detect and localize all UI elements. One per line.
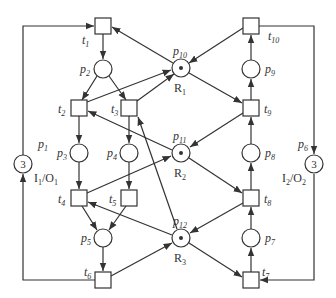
label-t8: t8 <box>264 192 271 208</box>
label-t4: t4 <box>58 192 65 208</box>
label-t10: t10 <box>268 29 279 45</box>
resource-label-io2: I2/O2 <box>282 171 306 187</box>
label-p1: p1 <box>37 137 48 153</box>
resource-label-r3: R3 <box>174 251 186 267</box>
label-t6: t6 <box>84 265 91 281</box>
resource-label-r1: R1 <box>174 81 186 97</box>
transition-t8[interactable] <box>243 190 259 206</box>
label-t2: t2 <box>58 102 65 118</box>
arc-t10-p10 <box>189 28 243 63</box>
place-p8[interactable] <box>242 144 260 162</box>
label-p11: p11 <box>172 129 186 145</box>
token-count-p1: 3 <box>20 158 26 170</box>
transition-t6[interactable] <box>95 272 111 288</box>
label-t3: t3 <box>111 102 118 118</box>
arc-t6-p12 <box>111 243 172 276</box>
place-p2[interactable] <box>94 60 112 78</box>
arc-p10-t1 <box>112 27 173 63</box>
label-t1: t1 <box>82 33 89 49</box>
label-t5: t5 <box>109 192 116 208</box>
place-p7[interactable] <box>242 229 260 247</box>
token-dot-p11 <box>179 151 183 155</box>
label-p5: p5 <box>80 231 91 247</box>
label-p6: p6 <box>297 137 308 153</box>
transition-t7[interactable] <box>243 272 259 288</box>
place-p5[interactable] <box>94 229 112 247</box>
arc-p12-t3 <box>138 117 177 229</box>
transition-t9[interactable] <box>243 100 259 116</box>
label-p10: p10 <box>172 44 187 60</box>
label-t7: t7 <box>262 265 270 281</box>
label-p2: p2 <box>79 62 90 78</box>
transition-t5[interactable] <box>121 190 137 206</box>
label-p4: p4 <box>106 146 117 162</box>
label-p12: p12 <box>172 214 187 230</box>
token-dot-p12 <box>179 236 183 240</box>
arc-t3-p10 <box>137 74 174 101</box>
label-p9: p9 <box>264 62 275 78</box>
petri-net-diagram: 3 3 p1 p2 p3 p4 p5 p6 p7 p8 p9 p10 p11 p… <box>0 0 336 298</box>
label-p7: p7 <box>264 231 276 247</box>
label-p3: p3 <box>56 146 67 162</box>
resource-label-io1: I1/O1 <box>34 171 58 187</box>
arc-t5-p5 <box>109 206 126 230</box>
resource-label-r2: R2 <box>174 166 186 182</box>
arc-p6-t7 <box>260 174 314 280</box>
label-p8: p8 <box>264 146 275 162</box>
arc-t10-p6 <box>259 26 314 154</box>
place-p9[interactable] <box>242 60 260 78</box>
arc-t4-p5 <box>82 206 97 230</box>
arc-p2-t2 <box>82 76 97 100</box>
token-dot-p10 <box>179 66 183 70</box>
place-p3[interactable] <box>70 144 88 162</box>
arc-p11-t8 <box>189 158 242 193</box>
transition-t3[interactable] <box>121 100 137 116</box>
arc-t8-p12 <box>190 203 243 233</box>
token-count-p6: 3 <box>311 158 317 170</box>
label-t9: t9 <box>264 102 271 118</box>
transition-t1[interactable] <box>95 18 111 34</box>
place-p4[interactable] <box>120 144 138 162</box>
arc-t9-p11 <box>190 113 243 147</box>
transition-t4[interactable] <box>71 190 87 206</box>
arc-p10-t9 <box>189 73 242 103</box>
transition-t2[interactable] <box>71 100 87 116</box>
transition-t10[interactable] <box>243 18 259 34</box>
arc-p12-t7 <box>189 243 242 277</box>
